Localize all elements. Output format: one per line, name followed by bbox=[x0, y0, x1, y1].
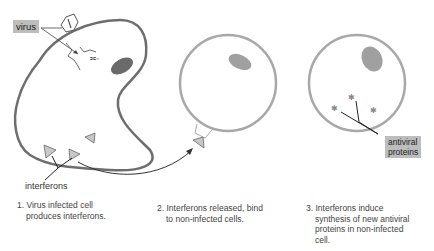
antiviral-label-line2: proteins bbox=[388, 147, 418, 157]
interferons-label: interferons bbox=[25, 181, 68, 192]
caption-3-line1: Interferons induce bbox=[315, 203, 383, 213]
caption-3-num: 3. bbox=[306, 203, 313, 213]
caption-step-3: 3. Interferons induce synthesis of new a… bbox=[306, 203, 410, 245]
release-arrow bbox=[78, 150, 192, 174]
infected-cell-membrane bbox=[15, 20, 152, 170]
caption-3-line4: cell. bbox=[306, 235, 410, 246]
antiviral-proteins-label: antiviral proteins bbox=[385, 136, 421, 158]
caption-2-line2: to non-infected cells. bbox=[157, 214, 263, 225]
cell-3-nucleus bbox=[357, 43, 386, 75]
interferon-icon bbox=[44, 145, 56, 158]
antiviral-protein-icon: ✱ bbox=[331, 104, 338, 113]
caption-3-line3: proteins in non-infected bbox=[306, 224, 410, 235]
caption-2-line1: Interferons released, bind bbox=[166, 203, 262, 213]
interferon-icon bbox=[85, 133, 95, 143]
caption-1-line2: produces interferons. bbox=[17, 211, 106, 222]
infected-cell-nucleus bbox=[108, 54, 136, 78]
bound-interferon-icon bbox=[193, 137, 204, 148]
caption-step-1: 1. Virus infected cell produces interfer… bbox=[17, 200, 106, 221]
svg-text:ᑐᑕ∾: ᑐᑕ∾ bbox=[90, 56, 100, 61]
antiviral-protein-icon: ✱ bbox=[370, 106, 377, 115]
antiviral-protein-icon: ✱ bbox=[348, 93, 355, 102]
caption-step-2: 2. Interferons released, bind to non-inf… bbox=[157, 203, 263, 224]
non-infected-cell-2 bbox=[180, 35, 276, 131]
virus-label: virus bbox=[13, 20, 39, 33]
caption-1-num: 1. bbox=[17, 200, 24, 210]
antiviral-label-line1: antiviral bbox=[388, 137, 418, 147]
caption-2-num: 2. bbox=[157, 203, 164, 213]
non-infected-cell-3 bbox=[309, 35, 405, 131]
caption-1-line1: Virus infected cell bbox=[26, 200, 92, 210]
cell-2-nucleus bbox=[226, 51, 254, 74]
caption-3-line2: synthesis of new antiviral bbox=[306, 214, 410, 225]
